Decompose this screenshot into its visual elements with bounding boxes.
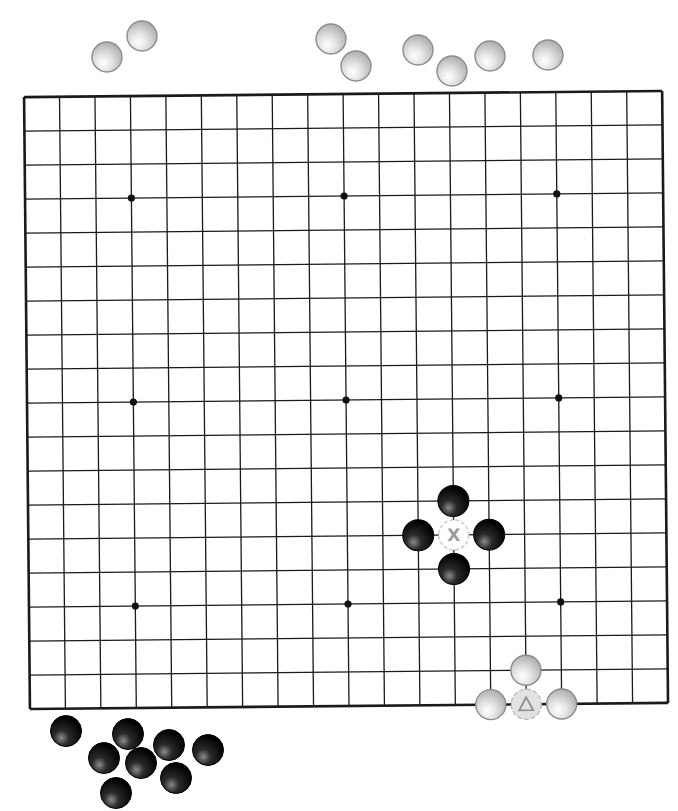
star-point: [344, 600, 351, 607]
black-stone-icon: [193, 735, 224, 766]
ghost-white-stone-icon: [511, 689, 541, 719]
white-stone[interactable]: [547, 689, 577, 719]
black-stone[interactable]: [438, 485, 469, 516]
black-stone-icon: [403, 520, 434, 551]
white-stone[interactable]: [476, 689, 506, 719]
go-board[interactable]: X: [24, 91, 668, 724]
star-point: [553, 190, 560, 197]
captured-black-stone: [51, 716, 82, 747]
captured-black-stone: [161, 763, 192, 794]
black-stone[interactable]: [438, 553, 469, 584]
white-stone-icon: [475, 41, 505, 71]
black-stone-icon: [113, 719, 144, 750]
white-stone[interactable]: [511, 655, 541, 685]
black-stone-icon: [438, 485, 469, 516]
captured-white-stone: [533, 40, 563, 70]
captured-black-stone: [89, 743, 120, 774]
black-stone-icon: [126, 748, 157, 779]
white-stone-icon: [341, 51, 371, 81]
black-stone-icon: [101, 778, 132, 809]
star-point: [557, 598, 564, 605]
black-stone-icon: [51, 716, 82, 747]
triangle-marker[interactable]: [511, 689, 541, 719]
star-point: [128, 194, 135, 201]
white-stone-icon: [403, 35, 433, 65]
white-stone-icon: [437, 56, 467, 86]
star-point: [130, 398, 137, 405]
captured-white-stone: [92, 42, 122, 72]
captured-white-stone: [316, 24, 346, 54]
black-stone-icon: [161, 763, 192, 794]
star-point: [340, 192, 347, 199]
black-stone-icon: [154, 730, 185, 761]
captured-white-stone: [341, 51, 371, 81]
captured-white-stone: [127, 21, 157, 51]
black-stone-icon: [89, 743, 120, 774]
cross-label: X: [447, 525, 460, 545]
captured-black-stone: [113, 719, 144, 750]
captured-white-stones: [92, 21, 563, 86]
black-stone[interactable]: [403, 520, 434, 551]
captured-white-stone: [403, 35, 433, 65]
captured-black-stone: [154, 730, 185, 761]
captured-black-stones: [51, 716, 224, 809]
white-stone-icon: [511, 655, 541, 685]
white-stone-icon: [316, 24, 346, 54]
white-stone-icon: [476, 689, 506, 719]
star-point: [342, 396, 349, 403]
black-stone[interactable]: [474, 519, 505, 550]
black-stone-icon: [438, 553, 469, 584]
white-stone-icon: [533, 40, 563, 70]
star-point: [555, 394, 562, 401]
go-diagram: X: [0, 0, 678, 811]
white-stone-icon: [92, 42, 122, 72]
black-stone-icon: [474, 519, 505, 550]
captured-black-stone: [126, 748, 157, 779]
star-point: [132, 602, 139, 609]
captured-black-stone: [101, 778, 132, 809]
white-stone-icon: [127, 21, 157, 51]
captured-black-stone: [193, 735, 224, 766]
captured-white-stone: [437, 56, 467, 86]
white-stone-icon: [547, 689, 577, 719]
cross-marker[interactable]: X: [439, 520, 469, 550]
captured-white-stone: [475, 41, 505, 71]
